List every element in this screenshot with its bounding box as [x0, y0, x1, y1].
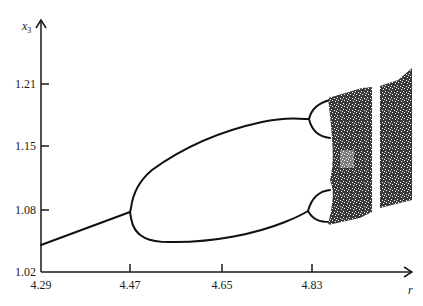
upper-branch-doubling-top — [309, 100, 330, 119]
lower-branch-doubling-top — [308, 190, 330, 211]
x-axis-label: r — [408, 283, 413, 297]
x-tick-label: 4.29 — [31, 278, 52, 292]
upper-branch — [130, 118, 309, 212]
lower-branch-doubling-bottom — [308, 211, 330, 222]
chaotic-region — [328, 68, 412, 225]
upper-branch-doubling-bottom — [309, 119, 330, 138]
chaotic-band-right — [380, 68, 412, 208]
y-tick-label: 1.08 — [15, 203, 36, 217]
y-tick-label: 1.15 — [15, 139, 36, 153]
x-tick-label: 4.47 — [120, 278, 141, 292]
x-tick-label: 4.83 — [302, 278, 323, 292]
periodic-window — [372, 86, 380, 212]
y-axis-label: x3 — [21, 19, 31, 35]
bifurcation-curves — [41, 100, 330, 245]
lower-branch — [130, 211, 308, 242]
bifurcation-chart: 4.29 4.47 4.65 4.83 1.02 1.08 1.15 1.21 … — [0, 0, 423, 306]
y-tick-label: 1.02 — [15, 265, 36, 279]
light-gap — [340, 150, 354, 168]
single-branch — [41, 212, 130, 245]
y-tick-label: 1.21 — [15, 77, 36, 91]
x-tick-label: 4.65 — [212, 278, 233, 292]
